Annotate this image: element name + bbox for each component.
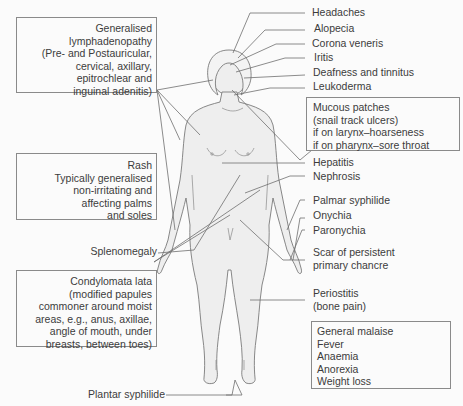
box-line: commoner around moist xyxy=(17,300,152,313)
label-hepatitis: Hepatitis xyxy=(313,156,354,169)
box-line: Anaemia xyxy=(317,350,450,363)
box-line: Generalised xyxy=(17,22,152,35)
label-plantar-syphilide: Plantar syphilide xyxy=(88,388,165,401)
label-alopecia: Alopecia xyxy=(314,22,354,35)
label-corona-veneris: Corona veneris xyxy=(312,37,383,50)
box-line: Mucous patches xyxy=(313,101,459,114)
box-line: lymphadenopathy xyxy=(17,35,152,48)
box-line: Weight loss xyxy=(317,375,450,388)
box-line: affecting palms xyxy=(17,197,152,210)
box-line: (Pre- and Postauricular, xyxy=(17,47,152,60)
box-line: epitrochlear and xyxy=(17,72,152,85)
label-deafness-tinnitus: Deafness and tinnitus xyxy=(313,66,414,79)
lymphadenopathy-box: Generalised lymphadenopathy (Pre- and Po… xyxy=(16,17,157,93)
box-line: (modified papules xyxy=(17,288,152,301)
box-line: Rash xyxy=(17,159,152,172)
label-periostitis-line2: (bone pain) xyxy=(313,300,366,313)
label-periostitis-line1: Periostitis xyxy=(313,287,359,300)
label-iritis: Iritis xyxy=(314,51,333,64)
rash-box: Rash Typically generalised non-irritatin… xyxy=(16,153,157,220)
label-nephrosis: Nephrosis xyxy=(313,170,360,183)
label-onychia: Onychia xyxy=(313,209,352,222)
female-body-outline xyxy=(157,50,301,384)
box-line: and soles xyxy=(17,209,152,222)
box-line: cervical, axillary, xyxy=(17,60,152,73)
box-line: areas, e.g., anus, axillae, xyxy=(17,313,152,326)
general-symptoms-box: General malaise Fever Anaemia Anorexia W… xyxy=(311,321,451,389)
mucous-patches-box: Mucous patches (snail track ulcers) if o… xyxy=(306,97,460,151)
box-line: if on pharynx–sore throat xyxy=(313,139,459,152)
label-palmar-syphilide: Palmar syphilide xyxy=(313,194,390,207)
box-line: Anorexia xyxy=(317,363,450,376)
box-line: General malaise xyxy=(317,325,450,338)
label-paronychia: Paronychia xyxy=(313,224,366,237)
box-line: Typically generalised xyxy=(17,172,152,185)
label-scar-line2: primary chancre xyxy=(313,259,388,272)
box-line: Fever xyxy=(317,338,450,351)
box-line: angle of mouth, under xyxy=(17,325,152,338)
box-line: breasts, between toes) xyxy=(17,338,152,351)
box-line: non-irritating and xyxy=(17,184,152,197)
box-line: (snail track ulcers) xyxy=(313,114,459,127)
box-line: if on larynx–hoarseness xyxy=(313,126,459,139)
label-leukoderma: Leukoderma xyxy=(313,80,371,93)
condylomata-box: Condylomata lata (modified papules commo… xyxy=(16,270,157,347)
label-scar-line1: Scar of persistent xyxy=(313,246,395,259)
label-headaches: Headaches xyxy=(312,6,365,19)
syphilis-manifestations-diagram: Generalised lymphadenopathy (Pre- and Po… xyxy=(0,0,463,406)
box-line: inguinal adenitis) xyxy=(17,85,152,98)
label-splenomegaly: Splenomegaly xyxy=(90,245,157,258)
box-line: Condylomata lata xyxy=(17,275,152,288)
